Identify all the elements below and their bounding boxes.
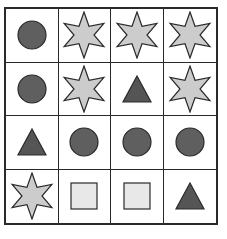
circle-icon — [113, 118, 161, 166]
square-icon — [60, 172, 108, 220]
circle-icon — [8, 11, 56, 59]
grid-cell-r2-c4 — [164, 63, 217, 117]
grid-cell-r3-c4 — [164, 116, 217, 170]
shape-grid — [4, 7, 218, 225]
grid-cell-r2-c2 — [59, 63, 112, 117]
circle-icon — [60, 118, 108, 166]
star-icon — [166, 65, 214, 113]
triangle-icon — [113, 65, 161, 113]
triangle-icon — [8, 118, 56, 166]
square-icon — [113, 172, 161, 220]
grid-cell-r4-c3 — [111, 170, 164, 224]
star-icon — [166, 11, 214, 59]
grid-cell-r2-c1 — [6, 63, 59, 117]
grid-cell-r2-c3 — [111, 63, 164, 117]
star-icon — [60, 65, 108, 113]
triangle-icon — [166, 172, 214, 220]
grid-cell-r3-c1 — [6, 116, 59, 170]
star-icon — [60, 11, 108, 59]
grid-cell-r4-c2 — [59, 170, 112, 224]
star-icon — [113, 11, 161, 59]
grid-cell-r3-c3 — [111, 116, 164, 170]
star-icon — [8, 172, 56, 220]
circle-icon — [166, 118, 214, 166]
grid-cell-r4-c1 — [6, 170, 59, 224]
grid-cell-r1-c4 — [164, 9, 217, 63]
grid-cell-r4-c4 — [164, 170, 217, 224]
grid-cell-r1-c3 — [111, 9, 164, 63]
circle-icon — [8, 65, 56, 113]
grid-cell-r1-c1 — [6, 9, 59, 63]
grid-cell-r3-c2 — [59, 116, 112, 170]
grid-cell-r1-c2 — [59, 9, 112, 63]
